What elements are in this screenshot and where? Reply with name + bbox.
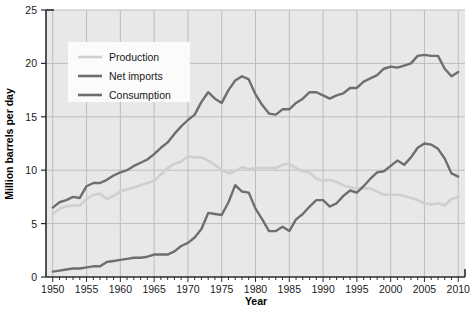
y-tick-label: 20 <box>25 57 37 69</box>
x-axis-title: Year <box>245 295 267 307</box>
x-tick-label: 1990 <box>311 283 335 295</box>
y-tick-label: 0 <box>31 271 37 283</box>
x-tick-label: 2010 <box>447 283 471 295</box>
legend-label-net-imports: Net imports <box>109 70 163 82</box>
chart-legend: ProductionNet importsConsumption <box>68 42 190 102</box>
y-tick-label: 10 <box>25 164 37 176</box>
legend-label-production: Production <box>109 51 159 63</box>
x-tick-label: 1980 <box>244 283 268 295</box>
y-tick-label: 15 <box>25 111 37 123</box>
x-tick-label: 1950 <box>41 283 65 295</box>
x-tick-label: 1995 <box>345 283 369 295</box>
y-tick-label: 5 <box>31 218 37 230</box>
y-axis-title: Million barrels per day <box>3 88 15 200</box>
x-tick-label: 1970 <box>176 283 200 295</box>
chart-container: 1950195519601965197019751980198519901995… <box>0 0 476 314</box>
x-tick-label: 1955 <box>75 283 99 295</box>
x-tick-label: 1965 <box>142 283 166 295</box>
x-tick-label: 2000 <box>379 283 403 295</box>
x-tick-label: 1985 <box>278 283 302 295</box>
line-chart: 1950195519601965197019751980198519901995… <box>0 0 476 314</box>
y-tick-label: 25 <box>25 4 37 16</box>
x-tick-label: 1975 <box>210 283 234 295</box>
x-tick-label: 2005 <box>413 283 437 295</box>
legend-label-consumption: Consumption <box>109 89 171 101</box>
x-tick-label: 1960 <box>109 283 133 295</box>
